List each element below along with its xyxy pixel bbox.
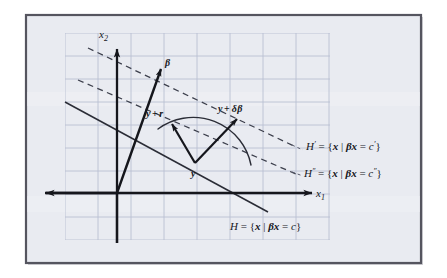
residual-label-term: r <box>159 108 163 119</box>
db-label-delta: δ <box>232 103 237 114</box>
hyperplane-H-label: H = {x | βx = c} <box>229 220 301 232</box>
h-close: } <box>296 220 301 232</box>
db-label-beta: β <box>236 103 243 114</box>
h-bar: | <box>260 220 268 232</box>
hdp-eq: = <box>357 167 369 179</box>
hp-close: } <box>375 140 380 152</box>
x-axis-label-sub: 1 <box>321 193 325 202</box>
beta-vector-label: β <box>164 57 171 68</box>
residual-label-plus: + <box>152 108 158 119</box>
hdp-open: = { <box>315 167 332 179</box>
hyperplane-H-double-prime-label: H″ = {x | βx = c″} <box>303 167 382 179</box>
h-eq: = <box>279 220 291 232</box>
db-label-plus: + <box>224 103 230 114</box>
h-open: = { <box>238 220 255 232</box>
hp-bar: | <box>338 140 346 152</box>
point-y-label: y <box>190 168 196 179</box>
hdp-close: } <box>377 167 382 179</box>
figure-frame <box>26 15 421 263</box>
db-label-base: y <box>217 103 223 114</box>
residual-vector-label: y+r <box>145 108 163 119</box>
diagram-canvas: x2 x1 β y y+r y+δβ H′ = {x | βx = c′} H″… <box>0 0 447 278</box>
hp-open: = { <box>316 140 333 152</box>
hp-eq: = <box>357 140 369 152</box>
hdp-bar: | <box>338 167 346 179</box>
y-axis-label-sub: 2 <box>104 34 108 43</box>
figure-root: x2 x1 β y y+r y+δβ H′ = {x | βx = c′} H″… <box>0 0 447 278</box>
residual-label-base: y <box>145 108 151 119</box>
hyperplane-H-prime-label: H′ = {x | βx = c′} <box>305 140 381 152</box>
